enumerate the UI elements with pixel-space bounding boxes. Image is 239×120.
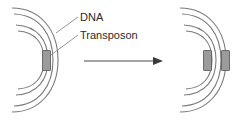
dna-arc-inner-2 bbox=[18, 31, 44, 89]
transposon-original-right bbox=[204, 51, 212, 71]
diagram-svg bbox=[0, 0, 239, 120]
dna-arc-outer-1 bbox=[12, 8, 58, 112]
dna-leader-line bbox=[56, 17, 78, 33]
transposon-copy-right bbox=[222, 51, 230, 71]
dna-label: DNA bbox=[80, 11, 103, 23]
transposon-label: Transposon bbox=[80, 29, 138, 41]
dna-arc-outer-1-after bbox=[180, 8, 226, 112]
chromosome-before bbox=[12, 8, 58, 112]
dna-arc-outer-2-after bbox=[182, 14, 221, 106]
transposon-original-left bbox=[43, 51, 51, 71]
label-leader-lines bbox=[51, 17, 78, 55]
transposition-arrow bbox=[84, 57, 163, 65]
transposon-leader-line bbox=[51, 35, 78, 55]
arrow-head bbox=[153, 57, 163, 65]
chromosome-after bbox=[180, 8, 230, 112]
figure-canvas: DNA Transposon bbox=[0, 0, 239, 120]
